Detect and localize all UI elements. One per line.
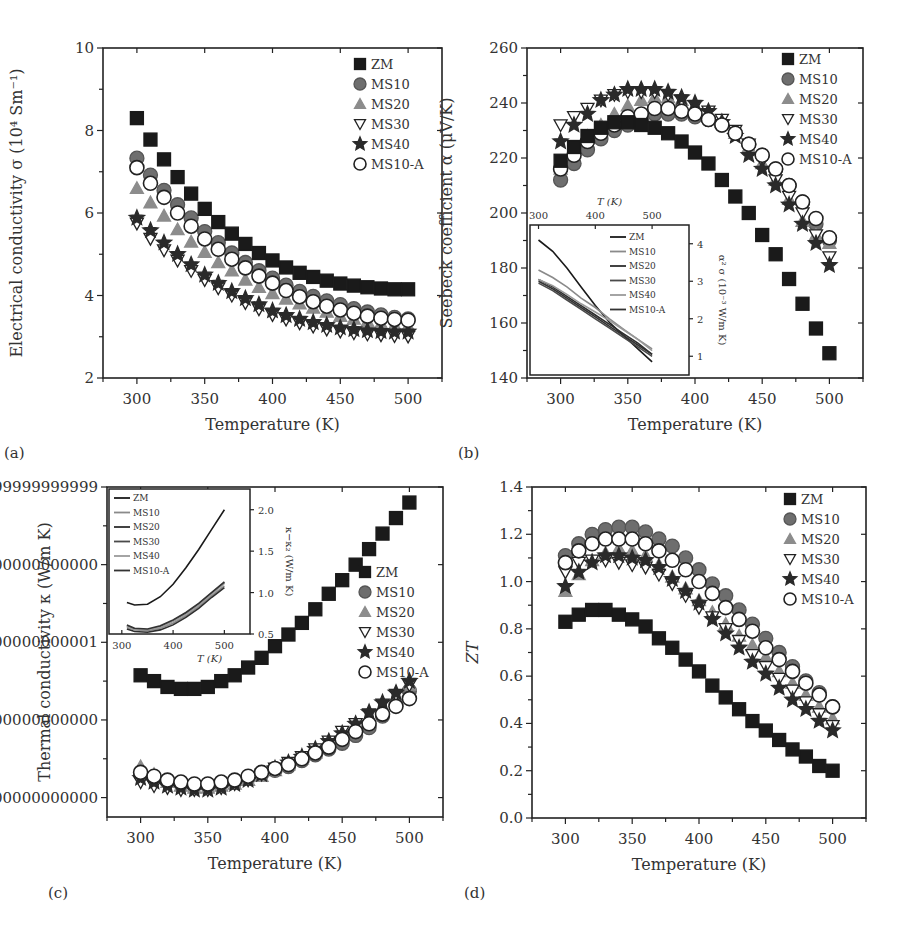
svg-text:300: 300 [529, 210, 548, 221]
y-tick-label: 0.6 [499, 667, 523, 685]
y-tick-label: 240 [489, 94, 518, 112]
inset-legend-label: MS10 [629, 247, 656, 257]
chart-panel-b: 300350400450500140160180200220240260Temp… [437, 39, 863, 462]
y-tick-label: 10 [75, 39, 94, 57]
y-tick-label: 200 [489, 204, 518, 222]
x-tick-label: 300 [123, 390, 152, 408]
x-tick-label: 300 [551, 830, 580, 848]
x-tick-label: 450 [326, 390, 355, 408]
legend-item-ms30: MS30 [783, 112, 838, 127]
panel-label: (d) [464, 884, 485, 902]
x-tick-label: 500 [394, 390, 423, 408]
x-tick-label: 400 [685, 830, 714, 848]
inset-legend-label: MS10-A [133, 566, 170, 576]
y-tick-label: 160 [489, 314, 518, 332]
svg-text:MS20: MS20 [799, 92, 838, 107]
chart-panel-c: 3003504004505000.80000000000000001.20000… [0, 478, 443, 902]
x-tick-label: 300 [126, 829, 155, 847]
svg-text:MS10: MS10 [371, 77, 410, 92]
svg-text:MS30: MS30 [371, 117, 410, 132]
inset-legend-label: MS40 [133, 551, 160, 561]
y-tick-label: 8 [84, 122, 94, 140]
svg-text:500: 500 [643, 210, 662, 221]
legend-item-zm: ZM [355, 57, 394, 72]
y-tick-label: 6 [84, 204, 94, 222]
legend-item-ms10: MS10 [782, 72, 838, 87]
legend-item-ms10-a: MS10-A [782, 152, 852, 167]
svg-text:1.5: 1.5 [258, 546, 274, 557]
legend-item-ms30: MS30 [360, 625, 415, 640]
svg-text:2: 2 [697, 314, 703, 325]
legend-item-ms10-a: MS10-A [354, 157, 424, 172]
legend-item-ms10-a: MS10-A [784, 592, 854, 607]
svg-text:T (K): T (K) [597, 196, 622, 207]
y-axis-label: ZT [463, 640, 482, 664]
y-tick-label: 220 [489, 149, 518, 167]
svg-text:500: 500 [215, 640, 234, 651]
series-ms10-a [134, 692, 417, 791]
svg-text:400: 400 [586, 210, 605, 221]
svg-text:MS40: MS40 [801, 572, 840, 587]
x-tick-label: 500 [818, 830, 847, 848]
inset-legend-label: MS20 [133, 522, 160, 532]
legend-item-ms20: MS20 [783, 92, 838, 107]
inset-legend-label: ZM [629, 232, 644, 242]
x-tick-label: 350 [618, 830, 647, 848]
svg-text:0.5: 0.5 [258, 629, 274, 640]
legend-item-zm: ZM [785, 492, 824, 507]
svg-text:MS10-A: MS10-A [801, 592, 854, 607]
svg-text:κ−κ₂ (W/m K): κ−κ₂ (W/m K) [284, 527, 295, 597]
svg-text:MS40: MS40 [371, 137, 410, 152]
x-tick-label: 400 [258, 390, 287, 408]
y-tick-label: 140 [489, 369, 518, 387]
svg-text:MS20: MS20 [376, 605, 415, 620]
x-axis-label: Temperature (K) [632, 855, 766, 874]
y-tick-label: 1.4 [499, 478, 523, 496]
y-tick-label: 2.3999999999999999 [0, 478, 98, 496]
svg-text:MS40: MS40 [799, 132, 838, 147]
x-tick-label: 350 [190, 390, 219, 408]
svg-text:MS30: MS30 [801, 552, 840, 567]
legend-item-ms20: MS20 [355, 97, 410, 112]
series-zm [559, 603, 839, 777]
y-tick-label: 0.8 [499, 620, 523, 638]
svg-text:2.0: 2.0 [258, 505, 274, 516]
inset-chart: 3004005000.51.01.52.0T (K)κ−κ₂ (W/m K)ZM… [109, 489, 295, 664]
legend: ZMMS10MS20MS30MS40MS10-A [781, 52, 852, 167]
x-tick-label: 450 [328, 829, 357, 847]
legend-item-ms10: MS10 [784, 512, 840, 527]
svg-text:MS20: MS20 [801, 532, 840, 547]
x-tick-label: 450 [748, 390, 777, 408]
y-tick-label: 0.0 [499, 809, 523, 827]
svg-text:ZM: ZM [801, 492, 823, 507]
y-tick-label: 0.8000000000000000 [0, 789, 98, 807]
chart-panel-a: 300350400450500246810Temperature (K)Elec… [4, 39, 442, 462]
y-tick-label: 0.2 [499, 762, 523, 780]
panel-label: (b) [458, 444, 479, 462]
legend-item-ms20: MS20 [785, 532, 840, 547]
svg-text:MS40: MS40 [376, 645, 415, 660]
y-tick-label: 4 [84, 287, 94, 305]
x-tick-label: 350 [193, 829, 222, 847]
legend-item-ms30: MS30 [355, 117, 410, 132]
inset-legend-label: MS20 [629, 261, 656, 271]
svg-text:MS10: MS10 [376, 585, 415, 600]
legend: ZMMS10MS20MS30MS40MS10-A [783, 492, 854, 607]
svg-text:MS30: MS30 [799, 112, 838, 127]
svg-text:ZM: ZM [799, 52, 821, 67]
y-tick-label: 1.0 [499, 573, 523, 591]
y-tick-label: 180 [489, 259, 518, 277]
x-tick-label: 500 [395, 829, 424, 847]
legend-item-ms20: MS20 [360, 605, 415, 620]
svg-text:T (K): T (K) [197, 653, 222, 664]
y-axis-label: Seebeck coefficient α (μV/K) [437, 98, 456, 329]
x-tick-label: 500 [815, 390, 844, 408]
svg-text:MS10-A: MS10-A [371, 157, 424, 172]
inset-legend-label: ZM [133, 493, 148, 503]
svg-text:MS10-A: MS10-A [799, 152, 852, 167]
x-tick-label: 300 [546, 390, 575, 408]
y-tick-label: 0.4 [499, 714, 523, 732]
y-tick-label: 2 [84, 369, 94, 387]
svg-text:MS30: MS30 [376, 625, 415, 640]
x-tick-label: 350 [613, 390, 642, 408]
